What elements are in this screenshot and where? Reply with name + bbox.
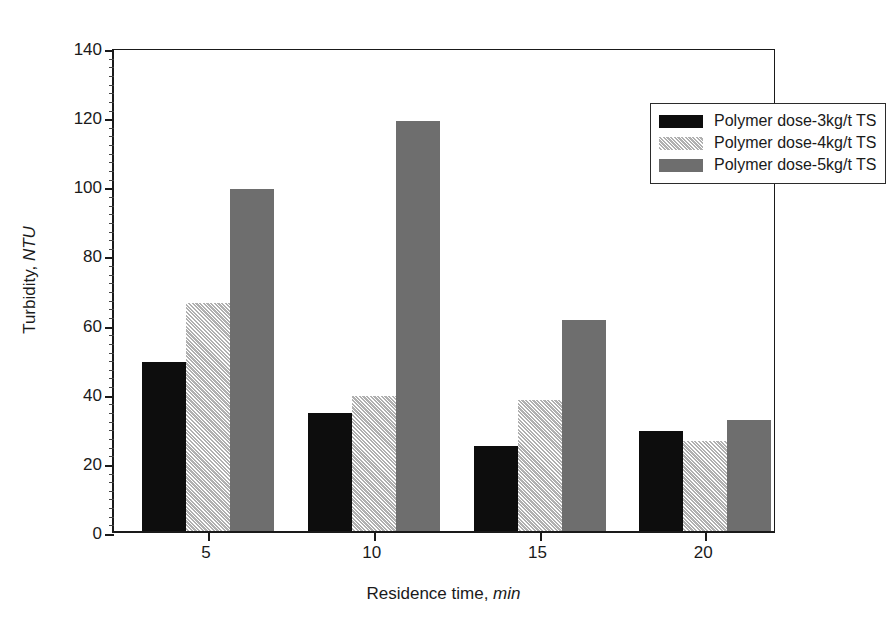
y-axis-tick-label: 20 xyxy=(42,456,102,473)
x-axis-title-italic: min xyxy=(493,584,520,603)
chart-legend: Polymer dose-3kg/t TSPolymer dose-4kg/t … xyxy=(650,103,886,184)
legend-label: Polymer dose-3kg/t TS xyxy=(714,113,876,129)
bar xyxy=(142,362,186,531)
y-axis-title: Turbidity, NTU xyxy=(20,170,40,390)
legend-label: Polymer dose-5kg/t TS xyxy=(714,157,876,173)
bar xyxy=(683,441,727,531)
x-axis-tick xyxy=(374,531,376,541)
bar xyxy=(396,121,440,531)
x-axis-tick-label: 15 xyxy=(498,544,578,562)
legend-item: Polymer dose-5kg/t TS xyxy=(659,154,876,176)
bar xyxy=(562,320,606,531)
y-axis-tick-label: 0 xyxy=(42,525,102,542)
bar xyxy=(727,420,771,531)
plot-area: 020406080100120140 Polymer dose-3kg/t TS… xyxy=(112,49,775,533)
y-axis-tick-label: 60 xyxy=(42,318,102,335)
bar xyxy=(230,189,274,531)
y-axis-tick-label: 80 xyxy=(42,248,102,265)
bar xyxy=(186,303,230,531)
x-axis-tick-label: 20 xyxy=(663,544,743,562)
legend-swatch xyxy=(659,115,703,128)
bar xyxy=(518,400,562,531)
y-axis-title-plain: Turbidity, xyxy=(20,266,39,334)
y-axis-title-italic: NTU xyxy=(20,226,39,261)
y-axis-tick xyxy=(105,465,114,467)
bar xyxy=(474,446,518,531)
y-axis-tick-label: 140 xyxy=(42,41,102,58)
y-axis-tick-label: 100 xyxy=(42,179,102,196)
x-axis-tick xyxy=(705,531,707,541)
x-axis-tick xyxy=(540,531,542,541)
y-axis-tick-label: 40 xyxy=(42,387,102,404)
x-axis-tick xyxy=(208,531,210,541)
legend-swatch xyxy=(659,159,703,172)
y-axis-tick xyxy=(105,327,114,329)
x-axis-title-plain: Residence time, xyxy=(366,584,488,603)
y-axis-tick xyxy=(105,396,114,398)
bar xyxy=(639,431,683,531)
x-axis-tick-label: 10 xyxy=(332,544,412,562)
y-axis-tick xyxy=(105,50,114,52)
y-axis-tick xyxy=(105,534,114,536)
legend-item: Polymer dose-4kg/t TS xyxy=(659,132,876,154)
bar xyxy=(308,413,352,531)
legend-swatch xyxy=(659,137,703,150)
y-axis-tick xyxy=(105,257,114,259)
legend-item: Polymer dose-3kg/t TS xyxy=(659,110,876,132)
x-axis-tick-label: 5 xyxy=(166,544,246,562)
legend-label: Polymer dose-4kg/t TS xyxy=(714,135,876,151)
bar xyxy=(352,396,396,531)
y-axis-tick xyxy=(105,188,114,190)
y-axis-tick-label: 120 xyxy=(42,110,102,127)
x-axis-title: Residence time, min xyxy=(112,584,775,604)
y-axis-tick xyxy=(105,119,114,121)
